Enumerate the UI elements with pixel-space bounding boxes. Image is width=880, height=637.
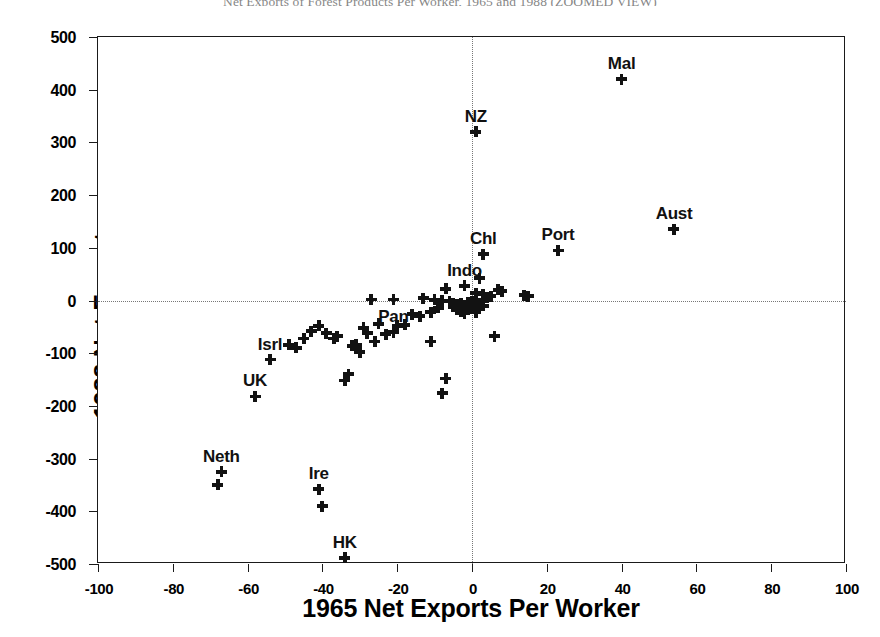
- y-tick: 500: [89, 37, 98, 38]
- y-tick-label: 500: [51, 29, 77, 47]
- x-tick: 100: [846, 564, 847, 572]
- data-point: [437, 388, 448, 399]
- x-tick-label: 40: [615, 580, 631, 597]
- y-tick-label: 200: [51, 187, 77, 205]
- x-tick-label: -100: [85, 580, 113, 597]
- y-tick: 300: [89, 142, 98, 143]
- data-point-label: Neth: [203, 447, 240, 467]
- data-point: [339, 375, 350, 386]
- data-point-label: Mal: [608, 54, 635, 74]
- y-tick: -200: [89, 406, 98, 407]
- data-point-label: Pan: [378, 307, 408, 327]
- data-point: [489, 331, 500, 342]
- y-tick: 400: [89, 90, 98, 91]
- data-point-label: HK: [333, 533, 357, 553]
- data-point: [216, 466, 227, 477]
- y-tick-label: -200: [46, 398, 76, 416]
- y-tick: -400: [89, 511, 98, 512]
- data-point-label: UK: [243, 371, 267, 391]
- y-tick-label: -500: [46, 556, 76, 574]
- y-tick: 0: [89, 301, 98, 302]
- data-point: [425, 307, 436, 318]
- data-point: [283, 339, 294, 350]
- data-point-label: Port: [542, 225, 575, 245]
- x-tick-label: -80: [164, 580, 184, 597]
- data-point: [470, 126, 481, 137]
- y-tick: -500: [89, 564, 98, 565]
- data-point-label: Isrl: [258, 335, 282, 355]
- x-tick: 60: [696, 564, 697, 572]
- data-point: [250, 391, 261, 402]
- y-tick-label: -100: [46, 345, 76, 363]
- x-tick: -100: [98, 564, 99, 572]
- y-tick-label: 400: [51, 82, 77, 100]
- plot-area: 5004003002001000-100-200-300-400-500 -10…: [97, 36, 845, 563]
- data-point: [668, 224, 679, 235]
- scatter-chart-figure: Net Exports of Forest Products Per Worke…: [0, 0, 880, 637]
- x-tick-label: -40: [313, 580, 333, 597]
- data-point: [380, 329, 391, 340]
- y-tick: 200: [89, 195, 98, 196]
- chart-title: Net Exports of Forest Products Per Worke…: [0, 0, 880, 6]
- data-point: [523, 291, 534, 302]
- data-point: [616, 74, 627, 85]
- x-tick-label: 80: [764, 580, 780, 597]
- data-point: [425, 336, 436, 347]
- x-tick: 40: [622, 564, 623, 572]
- data-point: [339, 552, 350, 563]
- data-point: [358, 322, 369, 333]
- data-point-label: Ire: [309, 464, 329, 484]
- data-point-label: Aust: [656, 204, 693, 224]
- data-point: [366, 294, 377, 305]
- x-tick: -20: [397, 564, 398, 572]
- y-tick-label: 100: [51, 240, 77, 258]
- data-point: [440, 373, 451, 384]
- x-tick-label: 20: [540, 580, 556, 597]
- data-point: [440, 283, 451, 294]
- x-tick-label: -60: [238, 580, 258, 597]
- x-tick-label: 0: [469, 580, 477, 597]
- data-point-label: NZ: [465, 107, 487, 127]
- data-point-label: Indo: [447, 261, 482, 281]
- x-tick-label: 60: [689, 580, 705, 597]
- data-point: [459, 280, 470, 291]
- x-axis-title: 1965 Net Exports Per Worker: [97, 594, 845, 623]
- data-point-label: Chl: [470, 229, 496, 249]
- data-point: [317, 501, 328, 512]
- data-point: [212, 479, 223, 490]
- data-point: [418, 293, 429, 304]
- x-tick-label: 100: [835, 580, 859, 597]
- y-tick-label: -400: [46, 503, 76, 521]
- y-tick-label: 300: [51, 134, 77, 152]
- data-point: [478, 249, 489, 260]
- data-point: [388, 294, 399, 305]
- y-tick-label: 0: [68, 293, 77, 311]
- data-point: [265, 354, 276, 365]
- x-tick-label: -20: [388, 580, 408, 597]
- data-point: [478, 296, 489, 307]
- x-tick: -60: [248, 564, 249, 572]
- data-point: [347, 340, 358, 351]
- x-tick: 80: [771, 564, 772, 572]
- y-tick-label: -300: [46, 451, 76, 469]
- x-tick: 20: [547, 564, 548, 572]
- x-tick: 0: [472, 564, 473, 572]
- x-tick: -40: [322, 564, 323, 572]
- y-tick: 100: [89, 248, 98, 249]
- y-tick: -300: [89, 459, 98, 460]
- data-point: [496, 286, 507, 297]
- data-point: [313, 484, 324, 495]
- data-point: [553, 245, 564, 256]
- y-tick: -100: [89, 353, 98, 354]
- x-tick: -80: [173, 564, 174, 572]
